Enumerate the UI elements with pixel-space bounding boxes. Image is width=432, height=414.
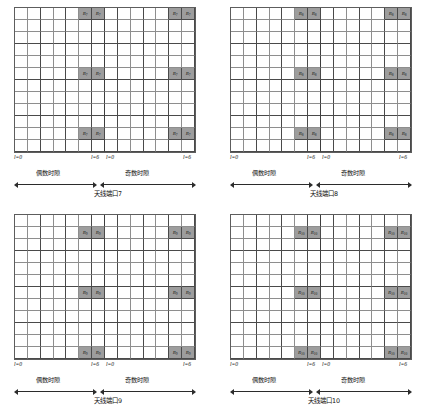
- resource-element: [347, 215, 360, 227]
- resource-element: [41, 251, 54, 263]
- resource-element: [231, 299, 244, 311]
- resource-element: [231, 251, 244, 263]
- resource-element: [79, 311, 92, 323]
- resource-element: [144, 335, 157, 347]
- resource-element: [270, 227, 283, 239]
- arrow-head-right: [408, 389, 412, 395]
- resource-element: [182, 104, 195, 116]
- resource-element: [308, 32, 321, 44]
- resource-element: [182, 20, 195, 32]
- even-slot-arrow: [14, 181, 97, 188]
- resource-element: [28, 20, 41, 32]
- reference-signal-cell: R9: [182, 227, 195, 239]
- resource-element: [54, 116, 67, 128]
- resource-element: [360, 275, 373, 287]
- resource-element: [156, 347, 169, 359]
- resource-element: [372, 263, 385, 275]
- resource-element: [334, 239, 347, 251]
- reference-signal-cell: R9: [92, 287, 105, 299]
- reference-signal-cell: R10: [385, 287, 398, 299]
- resource-element: [54, 299, 67, 311]
- resource-element: [28, 68, 41, 80]
- resource-element: [270, 92, 283, 104]
- resource-element: [282, 311, 295, 323]
- resource-element: [169, 20, 182, 32]
- resource-element: [244, 263, 257, 275]
- resource-element: [244, 227, 257, 239]
- resource-element: [295, 335, 308, 347]
- tick-left-start: l=0: [14, 155, 22, 161]
- resource-element: [169, 56, 182, 68]
- resource-element: [295, 104, 308, 116]
- reference-signal-cell: R7: [169, 128, 182, 140]
- resource-element: [92, 104, 105, 116]
- resource-element: [131, 239, 144, 251]
- resource-element: [385, 32, 398, 44]
- resource-element: [156, 92, 169, 104]
- tick-left-start: l=0: [14, 362, 22, 368]
- resource-element: [372, 239, 385, 251]
- panel-port10: R10R10R10R10R10R10R10R10R10R10R10R10l=0l…: [216, 207, 432, 414]
- resource-element: [144, 251, 157, 263]
- resource-element: [257, 287, 270, 299]
- resource-element: [385, 140, 398, 152]
- resource-element: [270, 116, 283, 128]
- resource-element: [66, 311, 79, 323]
- resource-element: [28, 128, 41, 140]
- resource-element: [334, 20, 347, 32]
- resource-element: [54, 215, 67, 227]
- reference-signal-label: R9: [169, 290, 181, 296]
- resource-element: [231, 287, 244, 299]
- resource-element: [347, 335, 360, 347]
- arrow-line: [103, 391, 193, 392]
- reference-signal-cell: R9: [92, 347, 105, 359]
- resource-element: [28, 311, 41, 323]
- resource-element: [144, 347, 157, 359]
- resource-element: [131, 311, 144, 323]
- resource-element: [321, 263, 334, 275]
- resource-element: [372, 32, 385, 44]
- resource-element: [131, 227, 144, 239]
- resource-element: [398, 20, 411, 32]
- resource-element: [385, 104, 398, 116]
- resource-element: [41, 32, 54, 44]
- resource-element: [231, 335, 244, 347]
- reference-signal-label: R8: [295, 71, 307, 77]
- arrow-line: [233, 391, 310, 392]
- resource-element: [144, 56, 157, 68]
- resource-element: [105, 56, 118, 68]
- resource-element: [169, 44, 182, 56]
- resource-element: [144, 92, 157, 104]
- resource-element: [105, 227, 118, 239]
- resource-element: [244, 44, 257, 56]
- resource-element: [66, 68, 79, 80]
- resource-element: [244, 347, 257, 359]
- resource-element: [308, 80, 321, 92]
- resource-element: [398, 311, 411, 323]
- resource-element: [308, 263, 321, 275]
- resource-element: [66, 8, 79, 20]
- resource-element: [41, 104, 54, 116]
- reference-signal-label: R8: [385, 11, 397, 17]
- reference-signal-cell: R9: [79, 227, 92, 239]
- reference-signal-label: R7: [169, 11, 181, 17]
- resource-element: [282, 44, 295, 56]
- resource-element: [257, 44, 270, 56]
- resource-element: [360, 92, 373, 104]
- resource-element: [54, 275, 67, 287]
- resource-element: [308, 239, 321, 251]
- reference-signal-label: R9: [182, 350, 194, 356]
- resource-element: [282, 239, 295, 251]
- resource-element: [28, 239, 41, 251]
- resource-element: [118, 56, 131, 68]
- reference-signal-label: R7: [79, 11, 91, 17]
- resource-element: [308, 104, 321, 116]
- resource-element: [270, 20, 283, 32]
- resource-element: [334, 251, 347, 263]
- tick-left-start: l=0: [230, 155, 238, 161]
- resource-element: [372, 275, 385, 287]
- resource-element: [15, 263, 28, 275]
- resource-element: [347, 80, 360, 92]
- resource-element: [131, 80, 144, 92]
- resource-element: [347, 275, 360, 287]
